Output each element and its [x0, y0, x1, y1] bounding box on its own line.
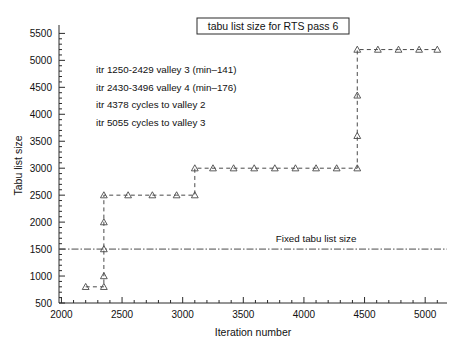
y-tick-label: 2000: [30, 217, 53, 228]
x-tick-label: 4500: [353, 309, 376, 320]
y-axis-title: Tabu list size: [12, 135, 24, 195]
data-point-marker: [191, 192, 198, 198]
annotation-block: itr 1250-2429 valley 3 (min–141)itr 2430…: [96, 64, 237, 128]
reference-line-group: Fixed tabu list size: [59, 233, 447, 249]
x-axis-title: Iteration number: [215, 326, 292, 338]
y-tick-label: 4000: [30, 109, 53, 120]
x-tick-label: 4000: [293, 309, 316, 320]
annotation-line: itr 4378 cycles to valley 2: [96, 99, 205, 110]
y-tick-label: 5500: [30, 28, 53, 39]
y-tick-label: 1500: [30, 244, 53, 255]
y-tick-label: 3000: [30, 163, 53, 174]
annotation-line: itr 2430-3496 valley 4 (min–176): [96, 82, 237, 93]
tabu-list-size-chart: 5001000150020002500300035004000450050005…: [0, 0, 456, 355]
chart-figure: 5001000150020002500300035004000450050005…: [0, 0, 456, 355]
chart-title-box: tabu list size for RTS pass 6: [197, 18, 349, 34]
y-tick-label: 4500: [30, 82, 53, 93]
y-tick-label: 5000: [30, 55, 53, 66]
y-tick-label: 1000: [30, 271, 53, 282]
x-tick-label: 2500: [111, 309, 134, 320]
chart-title: tabu list size for RTS pass 6: [208, 20, 339, 32]
x-tick-label: 2000: [50, 309, 73, 320]
x-tick-label: 5000: [414, 309, 437, 320]
annotation-line: itr 1250-2429 valley 3 (min–141): [96, 64, 237, 75]
y-tick-label: 500: [35, 298, 52, 309]
x-tick-label: 3500: [232, 309, 255, 320]
y-tick-label: 2500: [30, 190, 53, 201]
x-axis-ticks: 2000250030003500400045005000: [50, 297, 437, 320]
y-tick-label: 3500: [30, 136, 53, 147]
annotation-line: itr 5055 cycles to valley 3: [96, 117, 206, 128]
fixed-tabu-list-size-label: Fixed tabu list size: [276, 233, 357, 244]
x-tick-label: 3000: [172, 309, 195, 320]
y-axis-ticks: 5001000150020002500300035004000450050005…: [30, 28, 65, 309]
